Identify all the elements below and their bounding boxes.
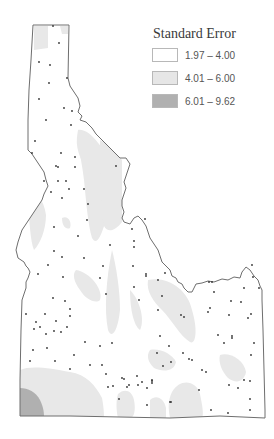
legend-swatch-high (152, 94, 178, 108)
legend-label-mid: 4.01 – 6.00 (185, 73, 235, 84)
legend-label-high: 6.01 – 9.62 (185, 96, 235, 107)
legend-item-mid: 4.01 – 6.00 (152, 69, 272, 87)
legend-swatch-low (152, 48, 178, 62)
legend-title: Standard Error (153, 26, 272, 42)
legend-item-high: 6.01 – 9.62 (152, 92, 272, 110)
legend: Standard Error 1.97 – 4.00 4.01 – 6.00 6… (152, 26, 272, 115)
legend-swatch-mid (152, 71, 178, 85)
legend-label-low: 1.97 – 4.00 (185, 50, 235, 61)
legend-item-low: 1.97 – 4.00 (152, 46, 272, 64)
